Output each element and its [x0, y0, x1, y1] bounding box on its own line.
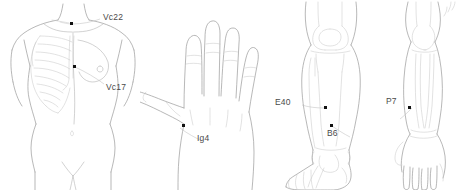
label-vc22: Vc22	[103, 13, 123, 22]
leg-illustration	[280, 0, 390, 190]
label-b6: B6	[327, 129, 338, 138]
point-marker-e40	[324, 106, 327, 109]
panel-dorsal-hand: Ig4	[140, 0, 280, 190]
panel-forearm: P7	[390, 0, 465, 190]
label-vc17: Vc17	[106, 83, 126, 92]
acupuncture-point-figure: Vc22 Vc17	[0, 0, 465, 190]
hand-illustration	[140, 0, 280, 190]
panel-anterior-torso: Vc22 Vc17	[0, 0, 150, 190]
arm-illustration	[390, 0, 465, 190]
point-marker-ig4	[182, 124, 185, 127]
point-marker-vc22	[70, 22, 73, 25]
torso-illustration	[0, 0, 150, 190]
panel-lower-leg: E40 B6	[280, 0, 390, 190]
point-marker-vc17	[73, 65, 76, 68]
point-marker-b6	[330, 124, 333, 127]
point-marker-p7	[408, 106, 411, 109]
label-ig4: Ig4	[197, 134, 209, 143]
label-e40: E40	[275, 98, 291, 107]
label-p7: P7	[386, 97, 397, 106]
